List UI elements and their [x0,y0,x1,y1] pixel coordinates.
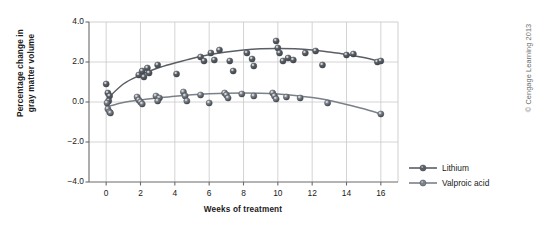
data-point [141,74,147,80]
x-tick-label: 16 [369,188,393,198]
data-point-highlight [291,58,293,60]
data-point-highlight [182,90,184,92]
data-point-highlight [209,51,211,53]
data-point [251,93,257,99]
data-point-highlight [379,59,381,61]
data-point-highlight [202,59,204,61]
data-point-highlight [321,63,323,65]
legend-item-label: Lithium [442,163,469,173]
data-point [290,57,296,63]
data-point-highlight [109,111,111,113]
data-point [313,48,319,54]
figure-container: Percentage change in gray matter volume … [0,0,544,229]
data-point-highlight [175,72,177,74]
data-point [378,58,384,64]
chart-legend: LithiumValproic acid [408,160,518,190]
data-point [325,100,331,106]
data-point [378,111,384,117]
data-point-highlight [376,60,378,62]
x-tick-label: 0 [94,188,118,198]
data-point [239,91,245,97]
data-point-highlight [303,51,305,53]
data-point-highlight [274,39,276,41]
x-tick-label: 2 [129,188,153,198]
data-point-highlight [183,94,185,96]
data-point [197,92,203,98]
data-point [350,51,356,57]
data-point-highlight [145,66,147,68]
data-point-highlight [156,63,158,65]
data-point-highlight [281,59,283,61]
data-point-highlight [278,51,280,53]
data-point-highlight [147,71,149,73]
data-point-highlight [106,107,108,109]
data-point [343,52,349,58]
data-point [107,110,113,116]
data-point-highlight [345,53,347,55]
data-point [244,50,250,56]
data-point-highlight [224,93,226,95]
data-point [201,58,207,64]
data-point [139,101,145,107]
data-point-highlight [104,82,106,84]
data-point-highlight [212,58,214,60]
data-point-highlight [226,96,228,98]
data-point-highlight [286,56,288,58]
data-point-highlight [137,73,139,75]
legend-swatch [408,177,438,189]
data-point-highlight [199,55,201,57]
legend-item: Valproic acid [408,175,518,190]
data-point [319,62,325,68]
data-point-highlight [157,96,159,98]
data-point-highlight [326,101,328,103]
legend-marker [420,179,426,185]
legend-item: Lithium [408,160,518,175]
data-point [230,68,236,74]
data-point-highlight [245,51,247,53]
data-point-highlight [271,91,273,93]
data-point [208,50,214,56]
data-point [155,62,161,68]
data-point-highlight [106,91,108,93]
data-point [273,96,279,102]
data-point-highlight [228,59,230,61]
legend-marker-highlight [421,166,423,168]
data-point [225,95,231,101]
data-point-highlight [274,97,276,99]
data-point [211,57,217,63]
data-point-highlight [154,94,156,96]
data-point-highlight [140,102,142,104]
data-point [103,81,109,87]
x-tick-label: 10 [266,188,290,198]
data-point-highlight [185,99,187,101]
data-point-highlight [108,94,110,96]
copyright-credit: © Cengage Learning 2013 [524,8,536,128]
data-point [155,98,161,104]
x-tick-label: 6 [197,188,221,198]
data-point [216,47,222,53]
x-axis-tick-labels: 0246810121416 [0,188,544,202]
data-point [273,38,279,44]
data-point [302,50,308,56]
data-point [251,63,257,69]
data-point-highlight [218,48,220,50]
data-point-highlight [379,112,381,114]
data-point [206,100,212,106]
data-point-highlight [276,46,278,48]
data-point-highlight [351,52,353,54]
data-point-highlight [142,75,144,77]
data-point-highlight [252,94,254,96]
chart-gridlines [89,22,398,182]
data-point [297,95,303,101]
data-point-highlight [156,99,158,101]
legend-marker [420,164,426,170]
x-tick-label: 4 [163,188,187,198]
data-point [249,56,255,62]
data-point-highlight [240,92,242,94]
x-tick-label: 8 [232,188,256,198]
data-point [184,98,190,104]
data-point-highlight [199,93,201,95]
data-point-highlight [285,95,287,97]
data-point-highlight [207,101,209,103]
x-tick-label: 12 [300,188,324,198]
